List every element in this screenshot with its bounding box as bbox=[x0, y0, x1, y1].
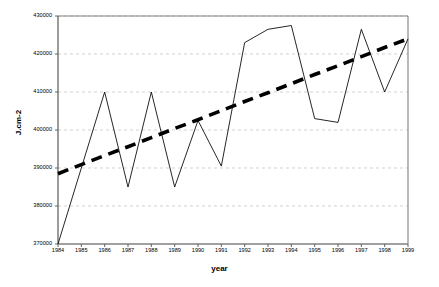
y-axis-tick-label: 380000 bbox=[8, 203, 52, 209]
y-axis-tick-label: 390000 bbox=[8, 165, 52, 171]
y-axis-tick-label: 370000 bbox=[8, 241, 52, 247]
chart-figure: 3700003800003900004000004100004200004300… bbox=[0, 0, 439, 287]
y-axis-title: J.cm-2 bbox=[14, 93, 23, 153]
x-axis-title: year bbox=[0, 264, 439, 273]
line-chart-plot bbox=[0, 0, 439, 287]
x-axis-tick-label: 1999 bbox=[393, 248, 423, 254]
y-axis-tick-label: 430000 bbox=[8, 13, 52, 19]
y-axis-tick-label: 420000 bbox=[8, 51, 52, 57]
